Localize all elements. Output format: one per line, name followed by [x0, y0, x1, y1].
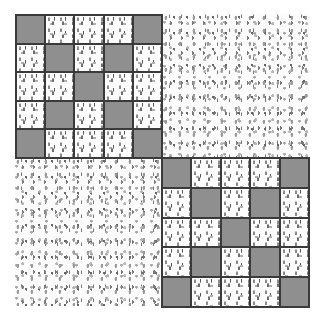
dark-square — [162, 158, 191, 188]
dark-square — [191, 188, 220, 218]
floral-square-bottom-left — [15, 158, 162, 306]
floral-square — [74, 44, 103, 73]
floral-square — [280, 218, 309, 248]
floral-square — [104, 72, 133, 101]
floral-square — [250, 277, 279, 307]
dark-square — [250, 188, 279, 218]
floral-square-top-right — [163, 14, 309, 158]
floral-square — [104, 129, 133, 158]
dark-square — [16, 129, 45, 158]
floral-square — [16, 44, 45, 73]
dark-square — [221, 218, 250, 248]
floral-square — [250, 218, 279, 248]
floral-square — [191, 218, 220, 248]
floral-square — [162, 247, 191, 277]
floral-square — [280, 188, 309, 218]
floral-square — [162, 218, 191, 248]
checkered-block-top-left — [15, 14, 163, 159]
floral-square — [221, 277, 250, 307]
floral-square — [104, 15, 133, 44]
dark-square — [45, 44, 74, 73]
floral-square — [16, 72, 45, 101]
floral-square — [280, 247, 309, 277]
floral-square — [191, 158, 220, 188]
floral-square — [16, 101, 45, 130]
quilt-image — [0, 0, 319, 320]
dark-square — [104, 101, 133, 130]
dark-square — [133, 15, 162, 44]
floral-square — [221, 247, 250, 277]
dark-square — [16, 15, 45, 44]
dark-square — [280, 277, 309, 307]
floral-square — [133, 72, 162, 101]
floral-square — [221, 158, 250, 188]
dark-square — [191, 247, 220, 277]
dark-square — [280, 158, 309, 188]
floral-square — [45, 129, 74, 158]
floral-square — [45, 15, 74, 44]
floral-square — [191, 277, 220, 307]
floral-square — [133, 101, 162, 130]
floral-square — [133, 44, 162, 73]
dark-square — [45, 101, 74, 130]
dark-square — [162, 277, 191, 307]
floral-square — [162, 188, 191, 218]
dark-square — [133, 129, 162, 158]
floral-square — [74, 129, 103, 158]
floral-square — [45, 72, 74, 101]
floral-square — [74, 15, 103, 44]
floral-square — [250, 158, 279, 188]
dark-square — [250, 247, 279, 277]
floral-square — [74, 101, 103, 130]
dark-square — [104, 44, 133, 73]
checkered-block-bottom-right — [161, 157, 310, 308]
dark-square — [74, 72, 103, 101]
floral-square — [221, 188, 250, 218]
